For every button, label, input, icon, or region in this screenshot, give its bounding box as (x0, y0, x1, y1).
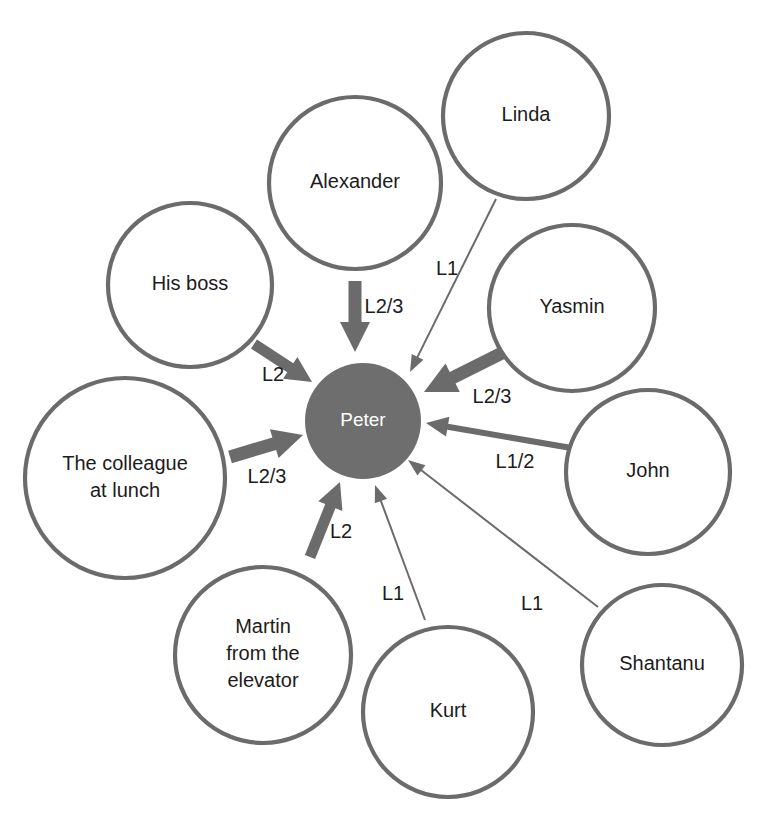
edge-john-peter (426, 417, 584, 453)
node-label: Linda (502, 103, 552, 125)
node-the-colleague-at-lunch[interactable]: The colleagueat lunch (25, 378, 225, 578)
node-label: Martin (235, 615, 291, 637)
node-shantanu[interactable]: Shantanu (582, 585, 742, 745)
edge-weight-label: L2 (330, 520, 352, 542)
node-alexander[interactable]: Alexander (269, 97, 441, 269)
arrowhead-icon (375, 485, 387, 503)
node-linda[interactable]: Linda (443, 33, 609, 199)
node-label: Yasmin (539, 295, 604, 317)
edge-weight-label: L2/3 (365, 295, 404, 317)
node-label: elevator (227, 669, 298, 691)
node-label: John (626, 459, 669, 481)
node-john[interactable]: John (566, 390, 730, 554)
node-label: His boss (152, 272, 229, 294)
influence-network-diagram: AlexanderLindaYasminHis bossThe colleagu… (0, 0, 770, 822)
edge-weight-label: L2/3 (248, 465, 287, 487)
node-kurt[interactable]: Kurt (363, 627, 533, 797)
node-label: at lunch (90, 479, 160, 501)
edge-colleague-peter (228, 429, 303, 463)
edge-weight-label: L2 (262, 363, 284, 385)
edge-weight-label: L1 (521, 592, 543, 614)
node-label: Alexander (310, 170, 400, 192)
node-his-boss[interactable]: His boss (108, 203, 272, 367)
node-label: Kurt (430, 699, 467, 721)
network-canvas: AlexanderLindaYasminHis bossThe colleagu… (0, 0, 770, 822)
center-node-label: Peter (340, 409, 386, 430)
arrow-icon (228, 429, 303, 463)
center-node-layer: Peter (305, 363, 421, 479)
edge-weight-label: L2/3 (473, 385, 512, 407)
arrowhead-icon (408, 460, 425, 476)
node-label: Shantanu (619, 652, 705, 674)
edge-weight-label: L1 (436, 257, 458, 279)
node-yasmin[interactable]: Yasmin (489, 225, 655, 391)
node-label: The colleague (62, 452, 188, 474)
node-martin-from-the-elevator[interactable]: Martinfrom theelevator (175, 567, 351, 743)
node-label: from the (226, 642, 299, 664)
edge-weight-label: L1 (382, 582, 404, 604)
edge-weight-label: L1/2 (496, 450, 535, 472)
arrowhead-icon (410, 354, 423, 372)
arrow-icon (426, 417, 584, 453)
node-peter[interactable]: Peter (305, 363, 421, 479)
